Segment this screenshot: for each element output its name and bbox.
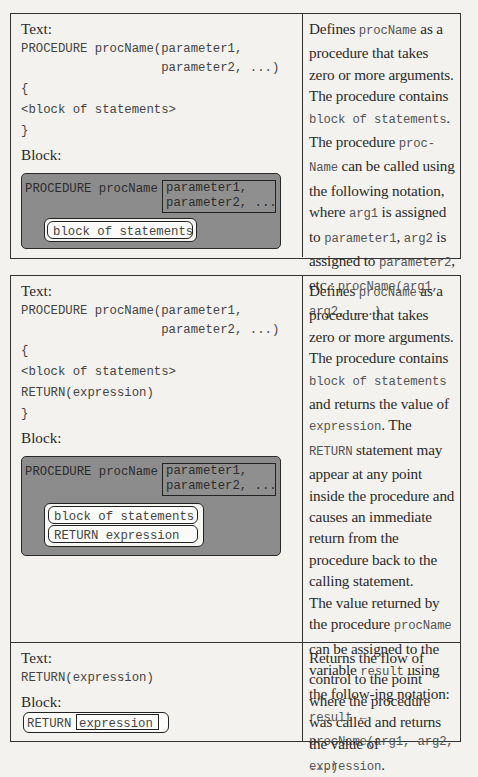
statement-block: block of statements (47, 221, 193, 239)
code-line: parameter2, ...) (21, 58, 302, 79)
text-label: Text: (21, 280, 302, 301)
code-line: } (21, 404, 302, 425)
procedure-block: PROCEDURE procName parameter1, parameter… (21, 173, 281, 249)
code-line: PROCEDURE procName(parameter1, (21, 39, 302, 60)
text-label: Text: (21, 18, 302, 39)
block-label: Block: (21, 144, 302, 165)
table-row-procedure-return: Text: PROCEDURE procName(parameter1, par… (11, 276, 460, 642)
procedure-table: Text: PROCEDURE procName(parameter1, par… (10, 13, 461, 259)
description-text: Returns the flow of control to the point… (309, 649, 441, 752)
inline-code: expression (309, 420, 381, 434)
statement-text: RETURN expression (54, 529, 179, 543)
inline-code: arg1 (349, 207, 378, 221)
parameters-box: parameter1, parameter2, ... (162, 463, 276, 496)
return-keyword: RETURN (27, 717, 71, 731)
statements-group: block of statements (44, 218, 197, 242)
inline-code: procName (359, 286, 417, 300)
expression-box: expression (76, 714, 159, 730)
block-label: Block: (21, 691, 302, 712)
inline-code: arg2 (404, 232, 433, 246)
description-text: , (396, 228, 403, 245)
inline-code: block of statements (309, 375, 446, 389)
parameter-2: parameter2, ... (166, 479, 275, 494)
text-label: Text: (21, 647, 302, 668)
procedure-block: PROCEDURE procName parameter1, parameter… (21, 456, 281, 556)
return-block: RETURN expression (23, 712, 169, 733)
parameters-box: parameter1, parameter2, ... (162, 180, 276, 213)
statement-text: block of statements (54, 510, 194, 524)
statement-text: block of statements (53, 225, 193, 239)
inline-code: parameter1 (324, 232, 396, 246)
code-line: PROCEDURE procName(parameter1, (21, 301, 302, 322)
inline-code: parameter2 (379, 256, 451, 270)
description-text: and returns the value of (309, 395, 449, 412)
description-cell: Defines procName as a procedure that tak… (303, 14, 460, 257)
description-cell: Defines procName as a procedure that tak… (303, 276, 460, 642)
description-text: Defines (309, 20, 359, 37)
description-cell: Returns the flow of control to the point… (303, 643, 460, 741)
parameter-1: parameter1, (166, 181, 275, 196)
description-text: . (381, 756, 385, 773)
code-line: RETURN(expression) (21, 668, 302, 689)
code-line: parameter2, ...) (21, 320, 302, 341)
statement-block: block of statements (48, 506, 198, 524)
statements-group: block of statements RETURN expression (44, 503, 204, 547)
inline-code: block of statements (309, 113, 446, 127)
procedure-return-table: Text: PROCEDURE procName(parameter1, par… (10, 275, 461, 742)
inline-code: expression (309, 760, 381, 774)
syntax-cell: Text: PROCEDURE procName(parameter1, par… (11, 276, 303, 642)
description-text: statement may appear at any point inside… (309, 441, 454, 589)
procedure-keyword: PROCEDURE procName (25, 465, 158, 480)
code-line: } (21, 121, 302, 142)
syntax-cell: Text: PROCEDURE procName(parameter1, par… (11, 14, 303, 257)
code-line: RETURN(expression) (21, 383, 302, 404)
block-label: Block: (21, 427, 302, 448)
table-row-procedure: Text: PROCEDURE procName(parameter1, par… (11, 14, 460, 257)
code-line: { (21, 341, 302, 362)
description-text: . (446, 109, 450, 126)
parameter-2: parameter2, ... (166, 196, 275, 211)
description-text: . The (381, 416, 411, 433)
description-text: Defines (309, 282, 359, 299)
code-line: { (21, 79, 302, 100)
code-line: <block of statements> (21, 362, 302, 383)
inline-code: procName (359, 24, 417, 38)
return-statement: RETURN expression (48, 525, 198, 543)
inline-code: procName (394, 619, 452, 633)
syntax-cell: Text: RETURN(expression) Block: RETURN e… (11, 643, 303, 741)
expression-text: expression (79, 717, 153, 731)
description-text: The procedure (309, 133, 399, 150)
procedure-keyword: PROCEDURE procName (25, 182, 158, 197)
inline-code: RETURN (309, 445, 352, 459)
code-line: <block of statements> (21, 100, 302, 121)
table-row-return: Text: RETURN(expression) Block: RETURN e… (11, 642, 460, 741)
parameter-1: parameter1, (166, 464, 275, 479)
